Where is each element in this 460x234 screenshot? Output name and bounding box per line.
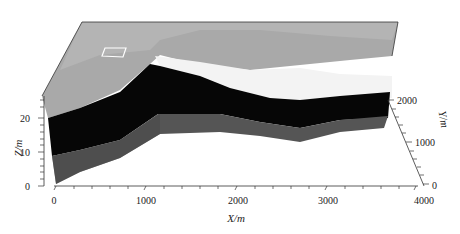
- geological-block-diagram: 0 10 20 Z/m 0 1000 2000 3000 4000 X/m: [0, 0, 460, 234]
- y-axis-title: Y/m: [437, 110, 452, 129]
- x-tick-3000: 3000: [318, 195, 338, 206]
- z-axis-title: Z/m: [12, 139, 24, 156]
- x-axis-title: X/m: [226, 212, 245, 224]
- x-axis-ticks: [54, 186, 416, 190]
- y-tick-2000: 2000: [397, 95, 417, 106]
- x-tick-4000: 4000: [414, 195, 434, 206]
- x-tick-1000: 1000: [136, 195, 156, 206]
- z-axis-ticks: [38, 100, 44, 186]
- y-tick-1000: 1000: [415, 137, 435, 148]
- z-tick-0: 0: [25, 181, 30, 192]
- z-tick-20: 20: [20, 113, 30, 124]
- x-tick-0: 0: [52, 195, 57, 206]
- y-tick-0: 0: [432, 180, 437, 191]
- x-tick-2000: 2000: [228, 195, 248, 206]
